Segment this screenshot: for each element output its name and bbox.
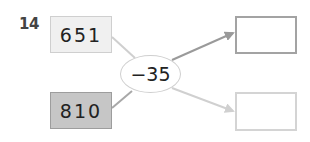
answer-box-bottom[interactable] [235, 92, 297, 131]
input-box-top: 651 [50, 16, 112, 53]
operator-label: −35 [130, 63, 170, 85]
operator-ellipse: −35 [120, 55, 181, 93]
input-box-bottom: 810 [50, 92, 112, 129]
arrow-operator-to-output-top [172, 33, 233, 60]
answer-box-top[interactable] [235, 16, 297, 54]
line-input-top-to-operator [112, 37, 135, 58]
arrow-operator-to-output-bottom [172, 88, 233, 111]
input-value-top: 651 [60, 24, 102, 46]
math-exercise: 14 651 810 −35 [0, 0, 310, 142]
line-input-bottom-to-operator [112, 91, 132, 108]
input-value-bottom: 810 [60, 100, 102, 122]
